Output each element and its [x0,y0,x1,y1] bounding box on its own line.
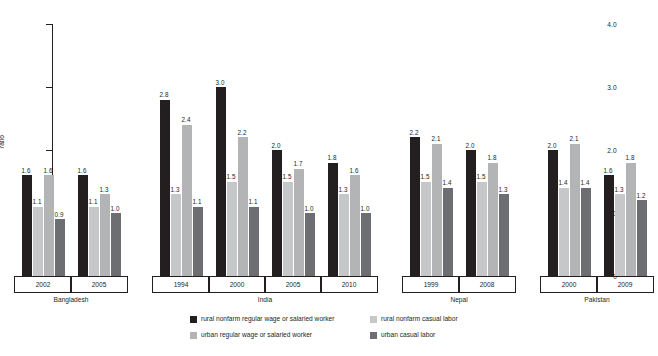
year-group: 2.01.51.81.3 [466,24,509,276]
bar [410,137,420,276]
year-group: 1.61.11.31.0 [78,24,121,276]
year-label: 1999 [403,281,459,288]
year-label: 2010 [321,281,377,288]
year-group: 1.61.11.60.9 [22,24,65,276]
bar-value-label: 1.1 [193,198,202,205]
year-axis-cell: 2005 [264,276,322,293]
bar [227,182,237,277]
country-group: 2.21.52.11.42.01.51.81.3 [410,24,509,276]
bar-value-label: 1.6 [604,167,613,174]
legend-label: urban regular wage or salaried worker [201,332,312,339]
bar [477,182,487,277]
bar-value-label: 1.3 [171,186,180,193]
legend-item: rural nonfarm casual labor [370,316,458,323]
bar [499,194,509,276]
year-label: 2000 [209,281,265,288]
bar-value-label: 1.3 [499,186,508,193]
bar [559,188,569,276]
bar-value-label: 2.0 [548,142,557,149]
bar [339,194,349,276]
year-label: 2002 [15,281,71,288]
legend-swatch-icon [190,332,197,339]
bar-value-label: 3.0 [216,79,225,86]
bar-value-label: 1.4 [581,179,590,186]
country-label: Nepal [390,296,529,303]
bar [78,175,88,276]
year-group: 1.61.31.81.2 [604,24,647,276]
year-label: 2005 [265,281,321,288]
bar-value-label: 1.5 [421,173,430,180]
bar-value-label: 1.6 [350,167,359,174]
bar [216,87,226,276]
bar [33,207,43,276]
year-label: 1994 [153,281,209,288]
bar-value-label: 0.9 [55,211,64,218]
bar [294,169,304,276]
bar [193,207,203,276]
bar-value-label: 1.4 [443,179,452,186]
bar [249,207,259,276]
bar [581,188,591,276]
bar-value-label: 1.4 [559,179,568,186]
year-axis-cell: 2000 [540,276,598,293]
bar-value-label: 1.6 [44,167,53,174]
bar-value-label: 1.2 [637,192,646,199]
bar [111,213,121,276]
year-axis-cell: 2010 [320,276,378,293]
bar [488,163,498,276]
year-group: 2.01.42.11.4 [548,24,591,276]
bar-value-label: 1.1 [249,198,258,205]
bar-value-label: 1.1 [33,198,42,205]
bar-value-label: 2.8 [160,91,169,98]
bar [283,182,293,277]
bar-value-label: 1.5 [283,173,292,180]
bar-value-label: 2.4 [182,116,191,123]
year-label: 2008 [459,281,515,288]
bar [421,182,431,277]
bar [361,213,371,276]
legend-swatch-icon [370,332,377,339]
year-label: 2005 [71,281,127,288]
bar-value-label: 1.7 [294,160,303,167]
bar-value-label: 1.0 [111,205,120,212]
bar [637,200,647,276]
year-group: 3.01.52.21.1 [216,24,259,276]
bar [466,150,476,276]
legend-swatch-icon [190,316,197,323]
legend-swatch-icon [370,316,377,323]
year-axis-cell: 1999 [402,276,460,293]
bar-value-label: 1.3 [100,186,109,193]
legend-item: urban regular wage or salaried worker [190,332,312,339]
legend-item: urban casual labor [370,332,435,339]
year-label: 2000 [541,281,597,288]
legend-label: rural nonfarm regular wage or salaried w… [201,316,334,323]
bar [44,175,54,276]
bar [432,144,442,276]
bar [570,144,580,276]
bar [305,213,315,276]
bar-value-label: 1.8 [488,154,497,161]
bar-value-label: 1.0 [305,205,314,212]
bar [22,175,32,276]
bar-value-label: 1.8 [626,154,635,161]
y-axis-label: ratio [0,135,5,148]
bar [615,194,625,276]
bar-value-label: 2.0 [272,142,281,149]
year-axis-cell: 2005 [70,276,128,293]
year-axis-cell: 2000 [208,276,266,293]
bar-value-label: 2.0 [466,142,475,149]
bar [350,175,360,276]
bar [626,163,636,276]
bar-value-label: 1.0 [361,205,370,212]
bar [238,137,248,276]
bar-value-label: 1.6 [22,167,31,174]
year-axis-cell: 2009 [596,276,654,293]
year-group: 2.01.51.71.0 [272,24,315,276]
year-group: 1.81.31.61.0 [328,24,371,276]
country-label: India [140,296,391,303]
year-axis-cell: 2002 [14,276,72,293]
bar-value-label: 1.6 [78,167,87,174]
bar-value-label: 1.1 [89,198,98,205]
year-axis-cell: 1994 [152,276,210,293]
